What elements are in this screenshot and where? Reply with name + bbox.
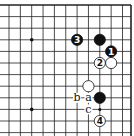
move-number: 4 — [97, 116, 103, 126]
black-stone — [94, 34, 105, 45]
small-dot-icon — [98, 108, 101, 111]
star-point-icon — [30, 38, 34, 42]
black-stone — [94, 92, 105, 103]
white-stone — [83, 81, 94, 92]
move-number: 2 — [97, 58, 103, 68]
board-grid — [0, 5, 131, 136]
stones: 3124 — [72, 34, 117, 126]
white-stone — [106, 57, 117, 68]
go-board: bac 3124 — [0, 0, 134, 136]
move-number: 1 — [108, 47, 114, 57]
position-mark-c: c — [85, 103, 91, 116]
position-mark-b: b — [74, 91, 81, 104]
move-number: 3 — [74, 35, 80, 45]
star-point-icon — [30, 108, 34, 112]
position-marks: bac — [73, 91, 92, 116]
